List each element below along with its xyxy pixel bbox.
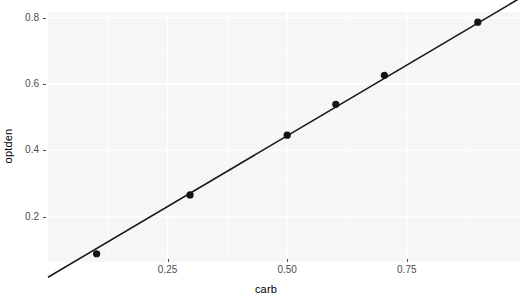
xtick-label-2: 0.75: [387, 264, 427, 275]
ytick-mark-3: [43, 18, 46, 19]
data-point[interactable]: [474, 19, 481, 26]
ytick-label-3: 0.8: [5, 12, 39, 23]
ytick-mark-2: [43, 84, 46, 85]
y-axis-title: optden: [2, 116, 14, 176]
data-point[interactable]: [332, 101, 339, 108]
data-point[interactable]: [186, 191, 193, 198]
ytick-label-2: 0.6: [5, 78, 39, 89]
data-point[interactable]: [381, 72, 388, 79]
xtick-mark-0: [168, 259, 169, 262]
xtick-label-1: 0.50: [267, 264, 307, 275]
ytick-mark-1: [43, 150, 46, 151]
scatter-plot: 0.25 0.50 0.75 0.2 0.4 0.6 0.8 carb optd…: [0, 0, 532, 304]
xtick-mark-1: [287, 259, 288, 262]
xtick-mark-2: [407, 259, 408, 262]
data-point[interactable]: [93, 250, 100, 257]
x-axis-title: carb: [0, 283, 532, 295]
xtick-label-0: 0.25: [148, 264, 188, 275]
ytick-mark-0: [43, 217, 46, 218]
chart-canvas: [0, 0, 532, 304]
data-point[interactable]: [284, 132, 291, 139]
ytick-label-0: 0.2: [5, 211, 39, 222]
